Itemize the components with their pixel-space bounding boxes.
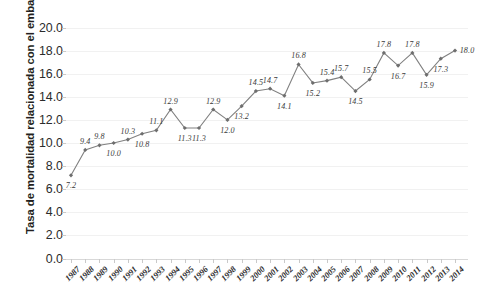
- y-axis-tick-labels: 0.02.04.06.08.010.012.014.016.018.020.0: [18, 0, 63, 301]
- y-tick-label: 10.0: [21, 136, 63, 150]
- data-label: 15.2: [305, 88, 320, 97]
- data-label: 16.7: [391, 71, 406, 80]
- data-label: 15.9: [419, 80, 434, 89]
- data-label: 11.1: [149, 117, 163, 126]
- data-label: 15.7: [334, 64, 349, 73]
- data-label: 10.3: [121, 126, 136, 135]
- data-point-marker: [140, 132, 144, 136]
- data-label: 15.5: [362, 66, 377, 75]
- data-label: 11.3: [192, 133, 206, 142]
- data-label: 7.2: [66, 181, 76, 190]
- y-tick-label: 12.0: [21, 113, 63, 127]
- y-tick-label: 18.0: [21, 44, 63, 58]
- data-label: 17.8: [405, 39, 420, 48]
- data-label: 18.0: [460, 45, 475, 54]
- y-tick-label: 6.0: [21, 182, 63, 196]
- data-point-marker: [69, 173, 73, 177]
- data-label: 14.5: [348, 97, 363, 106]
- y-tick-label: 20.0: [21, 21, 63, 35]
- data-label: 12.9: [163, 96, 178, 105]
- y-tick-label: 16.0: [21, 67, 63, 81]
- data-label: 14.5: [249, 78, 264, 87]
- data-point-marker: [83, 148, 87, 152]
- pregnancy-mortality-line-chart: Tasa de mortalidad relacionada con el em…: [0, 0, 488, 301]
- data-label: 17.3: [433, 64, 448, 73]
- data-point-marker: [112, 141, 116, 145]
- data-label: 10.0: [106, 149, 121, 158]
- data-point-marker: [268, 87, 272, 91]
- data-label: 12.0: [220, 125, 235, 134]
- data-label: 16.8: [291, 51, 306, 60]
- y-tick-label: 14.0: [21, 90, 63, 104]
- y-tick-label: 0.0: [21, 252, 63, 266]
- data-label: 12.9: [206, 96, 221, 105]
- data-label: 13.2: [234, 112, 249, 121]
- data-point-marker: [453, 49, 457, 53]
- data-label: 9.4: [80, 136, 90, 145]
- data-label: 11.3: [178, 133, 192, 142]
- y-tick-label: 2.0: [21, 228, 63, 242]
- data-label: 10.8: [135, 139, 150, 148]
- data-label: 14.1: [277, 101, 292, 110]
- data-label: 17.8: [377, 39, 392, 48]
- data-label: 14.7: [263, 75, 278, 84]
- data-point-marker: [282, 94, 286, 98]
- y-tick-label: 8.0: [21, 159, 63, 173]
- data-point-marker: [325, 79, 329, 83]
- data-label: 15.4: [320, 67, 335, 76]
- data-point-marker: [126, 137, 130, 141]
- y-tick-label: 4.0: [21, 205, 63, 219]
- data-point-marker: [97, 143, 101, 147]
- data-label: 9.8: [94, 132, 104, 141]
- series-polyline: [71, 51, 455, 176]
- plot-area: 7.29.49.810.010.310.811.112.911.311.312.…: [66, 0, 480, 301]
